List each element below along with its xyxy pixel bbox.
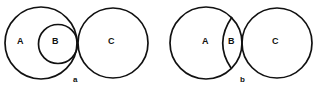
caption-b: b — [240, 75, 245, 84]
diagram-a: A B C a — [5, 7, 148, 84]
venn-diagrams: A B C a A B C b — [0, 0, 318, 90]
caption-a: a — [73, 75, 78, 84]
label-b: B — [228, 36, 235, 46]
diagram-b: A B C b — [170, 7, 312, 84]
label-b: B — [52, 36, 59, 46]
label-a: A — [202, 36, 209, 46]
label-c: C — [108, 36, 115, 46]
label-c: C — [272, 36, 279, 46]
circle-a — [5, 7, 77, 79]
label-a: A — [17, 36, 24, 46]
